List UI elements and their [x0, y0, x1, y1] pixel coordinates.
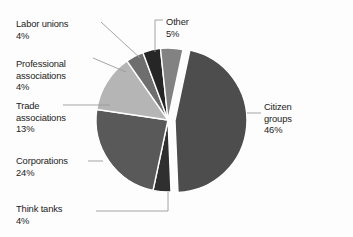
slice-label-name-other: Other	[166, 16, 189, 27]
slice-label-corporations: Corporations24%	[16, 155, 68, 178]
slice-label-name2-trade-associations: associations	[16, 112, 66, 124]
leader-line-think-tanks	[96, 192, 168, 211]
slice-label-name-corporations: Corporations	[16, 155, 68, 166]
leader-line-labor-unions	[101, 22, 140, 58]
slice-label-name-think-tanks: Think tanks	[16, 203, 62, 214]
slice-label-other: Other5%	[166, 16, 189, 39]
slice-label-name-labor-unions: Labor unions	[16, 18, 68, 29]
slice-label-think-tanks: Think tanks4%	[16, 203, 62, 226]
leader-line-other	[155, 20, 163, 52]
slice-label-labor-unions: Labor unions4%	[16, 18, 68, 41]
pie-slice-citizen-groups[interactable]	[175, 50, 247, 192]
slice-label-value-corporations: 24%	[16, 167, 68, 179]
slice-label-value-think-tanks: 4%	[16, 215, 62, 227]
slice-label-name2-citizen-groups: groups	[264, 113, 292, 125]
slice-label-name-professional-associations: Professional	[16, 58, 66, 69]
slice-label-name2-professional-associations: associations	[16, 70, 66, 82]
slice-label-citizen-groups: Citizengroups46%	[264, 101, 292, 136]
slice-label-value-professional-associations: 4%	[16, 81, 66, 93]
slice-label-trade-associations: Tradeassociations13%	[16, 100, 66, 135]
slice-label-professional-associations: Professionalassociations4%	[16, 58, 66, 93]
slice-label-value-trade-associations: 13%	[16, 123, 66, 135]
slice-label-name-citizen-groups: Citizen	[264, 101, 292, 112]
slice-label-value-other: 5%	[166, 28, 189, 40]
slice-label-value-labor-unions: 4%	[16, 30, 68, 42]
slice-label-name-trade-associations: Trade	[16, 100, 39, 111]
slice-label-value-citizen-groups: 46%	[264, 124, 292, 136]
pie-chart-figure: Citizengroups46%Think tanks4%Corporation…	[0, 0, 353, 237]
